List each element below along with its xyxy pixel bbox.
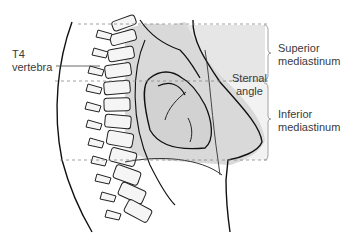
inferior-label-line2: mediastinum <box>278 121 340 134</box>
sternal-angle-label: Sternal angle <box>232 72 267 98</box>
inferior-mediastinum-label: Inferior mediastinum <box>278 108 340 134</box>
sternal-label-line2: angle <box>232 85 267 98</box>
inferior-label-line1: Inferior <box>278 108 340 121</box>
superior-mediastinum-label: Superior mediastinum <box>278 42 340 68</box>
t4-label-line1: T4 <box>12 48 52 61</box>
t4-label-line2: vertebra <box>12 61 52 74</box>
superior-label-line1: Superior <box>278 42 340 55</box>
sternal-label-line1: Sternal <box>232 72 267 85</box>
superior-label-line2: mediastinum <box>278 55 340 68</box>
t4-vertebra-label: T4 vertebra <box>12 48 52 74</box>
